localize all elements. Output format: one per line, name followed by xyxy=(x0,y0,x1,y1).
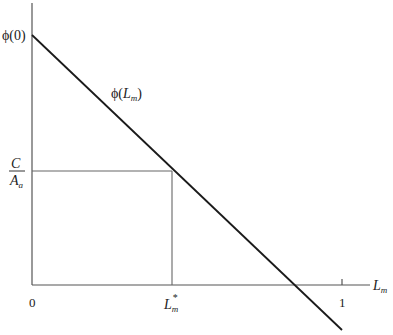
phi-curve xyxy=(32,35,342,330)
x-one-label: 1 xyxy=(339,295,346,310)
fraction-numerator-c: C xyxy=(11,156,21,171)
phi-zero-label: ϕ(0) xyxy=(2,28,26,44)
diagram-canvas: ϕ(0) ϕ(Lm) C Aa 0 Lm* 1 Lm xyxy=(0,0,393,335)
x-origin-label: 0 xyxy=(29,295,36,310)
phi-lm-label: ϕ(Lm) xyxy=(111,86,142,103)
fraction-denominator-aa: Aa xyxy=(9,173,24,190)
x-axis-label-lm: Lm xyxy=(372,278,388,295)
lm-star-label: Lm* xyxy=(163,292,179,314)
